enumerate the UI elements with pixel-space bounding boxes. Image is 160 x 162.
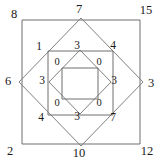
outer-square-label-bottom-right: 12 xyxy=(141,145,154,158)
middle-square-label-bottom-right: 7 xyxy=(110,112,116,124)
outer-diamond-label-left: 6 xyxy=(5,75,11,88)
middle-square-label-bottom-left: 4 xyxy=(38,112,44,124)
middle-diamond-label-bottom: 3 xyxy=(74,111,80,123)
outer-diamond-label-right: 3 xyxy=(148,77,154,90)
inner-square-shape xyxy=(62,68,98,99)
inner-square-label-bottom-left: 0 xyxy=(54,98,59,109)
outer-square-label-bottom-left: 2 xyxy=(7,145,13,158)
outer-diamond-shape xyxy=(19,18,143,146)
diagram-canvas: 8 15 2 12 7 3 10 6 1 4 4 7 3 3 3 3 0 0 0… xyxy=(0,0,160,162)
outer-diamond-label-bottom: 10 xyxy=(73,147,86,160)
middle-diamond-label-left: 3 xyxy=(39,75,45,87)
inner-square-label-top-left: 0 xyxy=(54,57,59,68)
inner-square-label-bottom-right: 0 xyxy=(96,98,101,109)
outer-square-label-top-left: 8 xyxy=(11,8,17,21)
middle-diamond-label-right: 3 xyxy=(111,75,117,87)
outer-square-label-top-right: 15 xyxy=(140,4,153,17)
outer-diamond-label-top: 7 xyxy=(76,3,82,16)
inner-square-label-top-right: 0 xyxy=(96,57,101,68)
nested-shapes-svg xyxy=(0,0,160,162)
middle-square-label-top-right: 4 xyxy=(110,40,116,52)
middle-square-label-top-left: 1 xyxy=(36,41,42,53)
middle-diamond-label-top: 3 xyxy=(74,40,80,52)
